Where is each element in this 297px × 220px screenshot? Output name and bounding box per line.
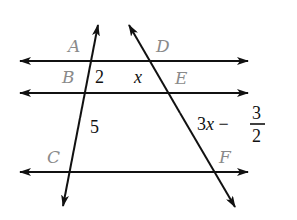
- point-label-a: A: [66, 36, 80, 56]
- point-label-b: B: [61, 67, 75, 87]
- expression-3x-minus: 3x −: [197, 114, 229, 134]
- point-label-c: C: [47, 147, 60, 167]
- segment-label-5: 5: [90, 117, 99, 137]
- point-label-d: D: [155, 36, 170, 56]
- point-label-e: E: [174, 68, 188, 88]
- diagram-canvas: A B C D E F 2 x 5 3x − 3 2: [0, 0, 297, 220]
- fraction-denominator: 2: [252, 126, 261, 146]
- point-label-f: F: [218, 147, 232, 167]
- segment-label-x: x: [133, 67, 142, 87]
- left-transversal-down: [63, 118, 80, 206]
- segment-label-2: 2: [95, 67, 104, 87]
- fraction-numerator: 3: [252, 103, 261, 123]
- segment-label-expression: 3x −: [197, 114, 229, 134]
